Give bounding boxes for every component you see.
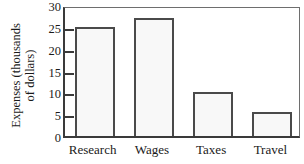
y-axis-tick-label: 5 <box>55 110 61 123</box>
y-axis-tick-mark <box>65 51 74 53</box>
bar-research <box>75 27 115 136</box>
y-axis-tick-labels: 051015202530 <box>36 0 61 164</box>
x-axis-tick-labels: ResearchWagesTaxesTravel <box>63 140 300 164</box>
y-axis-tick-label: 20 <box>49 44 62 57</box>
y-axis-tick-label: 0 <box>55 132 61 145</box>
x-axis-tick-label: Wages <box>135 140 169 160</box>
y-axis-tick-label: 15 <box>49 66 62 79</box>
x-axis-tick-label: Research <box>69 140 117 160</box>
bar-wages <box>134 18 174 136</box>
bar-travel <box>252 112 292 136</box>
y-axis-tick-mark <box>65 116 74 118</box>
bar-chart: Expenses (thousands of dollars) 05101520… <box>0 0 304 164</box>
y-axis-tick-mark <box>65 29 74 31</box>
y-axis-tick-mark <box>65 73 74 75</box>
y-axis-tick-label: 25 <box>49 23 62 36</box>
x-axis-tick-label: Taxes <box>196 140 226 160</box>
plot-area <box>63 7 300 138</box>
x-axis-tick-label: Travel <box>254 140 287 160</box>
y-axis-tick-mark <box>65 94 74 96</box>
y-axis-title-line-1: Expenses (thousands <box>10 23 24 128</box>
y-axis-tick-label: 10 <box>49 88 62 101</box>
y-axis-title-line-2: of dollars) <box>23 23 37 128</box>
bar-taxes <box>193 92 233 136</box>
y-axis-tick-label: 30 <box>49 1 62 14</box>
